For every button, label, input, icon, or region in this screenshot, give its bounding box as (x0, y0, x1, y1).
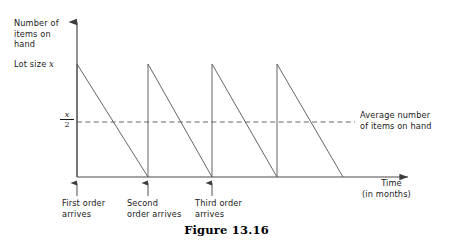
sawtooth-fall-1 (77, 64, 148, 177)
half-lot-denominator: 2 (60, 120, 74, 129)
half-lot-numerator: x (60, 111, 74, 120)
sawtooth-fall-4 (277, 64, 343, 177)
average-line-label: Average number of items on hand (360, 110, 432, 131)
lot-size-text: Lot size (14, 59, 49, 69)
half-lot-size-label: x 2 (60, 111, 74, 129)
y-axis-label: Number of items on hand (14, 18, 59, 50)
x-axis-label-line1: Time (381, 178, 402, 188)
figure-caption: Figure 13.16 (0, 223, 453, 237)
x-axis-label: Time(in months) (372, 178, 411, 199)
second-order-label: Second order arrives (127, 198, 181, 219)
third-order-label: Third order arrives (195, 198, 242, 219)
sawtooth-fall-3 (212, 64, 277, 177)
sawtooth-fall-2 (148, 64, 212, 177)
first-order-label: First order arrives (62, 198, 105, 219)
lot-size-symbol: x (49, 59, 54, 69)
x-axis-label-line2: (in months) (362, 189, 411, 200)
lot-size-label: Lot size x (14, 59, 54, 70)
figure-container: Number of items on hand Lot size x x 2 A… (0, 0, 453, 247)
